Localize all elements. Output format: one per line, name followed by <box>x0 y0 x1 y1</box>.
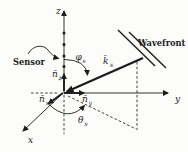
unit-vector-nz-subscript: z <box>58 74 63 81</box>
sensor-label: Sensor <box>13 57 46 67</box>
sensor-element-dot <box>63 55 66 58</box>
unit-vector-nx-label: n̄ <box>39 94 45 104</box>
sensor-element-dot <box>63 43 66 46</box>
z-axis-label: z <box>55 6 61 16</box>
k-vector-subscript: s <box>110 61 114 68</box>
theta-angle-arc <box>48 104 85 114</box>
x-axis-label: x <box>28 135 33 145</box>
unit-vector-ny-label: n̄ <box>82 94 88 104</box>
theta-angle-subscript: s <box>85 120 89 127</box>
unit-vector-nz-label: n̄ <box>52 69 58 79</box>
theta-angle-label: θ <box>78 115 84 125</box>
unit-vector-ny-subscript: y <box>88 99 93 107</box>
unit-vector-nx-subscript: x <box>46 99 50 106</box>
phi-angle-label: φ <box>76 52 83 62</box>
k-vector-label: k̄ <box>103 55 108 66</box>
y-axis-label: y <box>174 94 181 104</box>
diagram-canvas: z y x Sensor Wavefront k̄ s φ s θ s n̄ z… <box>0 0 188 152</box>
wavefront-label: Wavefront <box>137 38 186 48</box>
sensor-element-dot <box>63 32 66 35</box>
sensor-wavefront-coordinate-diagram: z y x Sensor Wavefront k̄ s φ s θ s n̄ z… <box>0 0 188 152</box>
phi-angle-subscript: s <box>83 57 87 64</box>
sensor-element-dot <box>63 65 66 68</box>
unit-vector-nx-arrow <box>49 93 64 104</box>
